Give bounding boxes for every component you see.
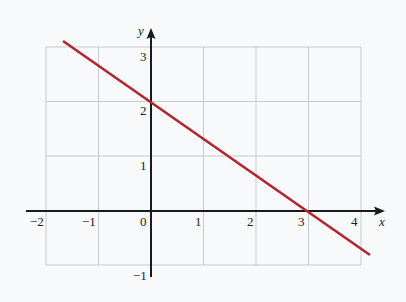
y-tick-3: 3 bbox=[140, 49, 147, 64]
x-tick-0: 0 bbox=[140, 214, 147, 229]
x-tick-neg2: −2 bbox=[30, 214, 44, 229]
x-tick-3: 3 bbox=[298, 214, 305, 229]
axes bbox=[26, 28, 385, 277]
x-tick-2: 2 bbox=[247, 214, 254, 229]
y-tick-neg1: −1 bbox=[133, 268, 147, 283]
x-tick-1: 1 bbox=[195, 214, 202, 229]
x-tick-4: 4 bbox=[351, 214, 358, 229]
x-axis-label: x bbox=[378, 214, 385, 229]
grid bbox=[46, 47, 361, 265]
x-tick-neg1: −1 bbox=[82, 214, 96, 229]
y-tick-2: 2 bbox=[140, 103, 147, 118]
data-line bbox=[63, 41, 370, 255]
y-tick-1: 1 bbox=[140, 158, 147, 173]
chart: x y −2 −1 0 1 2 3 4 3 2 1 −1 bbox=[0, 0, 406, 302]
y-axis-label: y bbox=[136, 23, 144, 38]
